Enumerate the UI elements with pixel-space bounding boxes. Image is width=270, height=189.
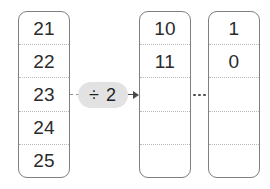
cell-value: 11 [155, 52, 175, 71]
cell-value: 10 [154, 19, 176, 38]
table-row [209, 78, 259, 111]
table-row: 0 [209, 45, 259, 78]
table-row: 11 [140, 45, 190, 78]
ellipsis-dot [193, 94, 196, 97]
ellipsis-dot [203, 94, 206, 97]
ellipsis-dot [198, 94, 201, 97]
source-column: 21 22 23 24 25 [18, 11, 70, 178]
table-row [140, 112, 190, 145]
table-row: 23 [19, 78, 69, 111]
cell-value: 23 [33, 85, 55, 104]
table-row: 1 [209, 12, 259, 45]
cell-value: 0 [229, 52, 240, 71]
table-row [209, 112, 259, 145]
cell-value: 21 [33, 19, 55, 38]
result-column: 1 0 [208, 11, 260, 178]
table-row: 22 [19, 45, 69, 78]
divide-operator-badge: ÷ 2 [78, 82, 128, 108]
cell-value: 24 [33, 118, 55, 137]
intermediate-column: 10 11 [139, 11, 191, 178]
table-row [140, 78, 190, 111]
table-row [140, 145, 190, 177]
table-row: 24 [19, 112, 69, 145]
table-row: 10 [140, 12, 190, 45]
cell-value: 1 [229, 19, 240, 38]
ellipsis-icon [191, 90, 208, 100]
cell-value: 25 [33, 151, 55, 170]
operator-label: ÷ 2 [89, 86, 117, 104]
cell-value: 22 [33, 52, 55, 71]
table-row: 21 [19, 12, 69, 45]
table-row: 25 [19, 145, 69, 177]
table-row [209, 145, 259, 177]
division-diagram: 21 22 23 24 25 ÷ 2 10 11 [0, 0, 270, 189]
